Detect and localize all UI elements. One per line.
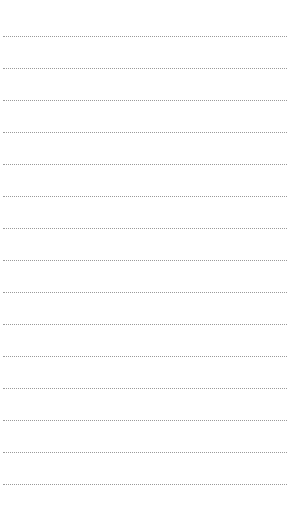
ruled-line [3,388,287,389]
ruled-line [3,132,287,133]
ruled-line [3,164,287,165]
ruled-line [3,484,287,485]
ruled-line [3,228,287,229]
lined-paper-page [0,0,291,525]
ruled-line [3,356,287,357]
ruled-line [3,452,287,453]
ruled-line [3,324,287,325]
ruled-line [3,260,287,261]
ruled-line [3,292,287,293]
ruled-line [3,36,287,37]
ruled-line [3,196,287,197]
ruled-line [3,100,287,101]
ruled-line [3,68,287,69]
ruled-line [3,420,287,421]
